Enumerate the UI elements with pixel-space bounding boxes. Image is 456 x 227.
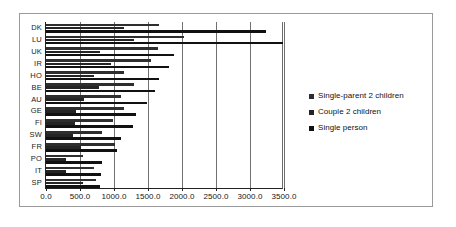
plot-area: 0.0500.01000.01500.02000.02500.03000.035… bbox=[45, 22, 283, 189]
y-axis-category-label: HO bbox=[30, 72, 42, 80]
bar bbox=[46, 161, 102, 164]
legend-item-label: Single-parent 2 children bbox=[318, 92, 404, 100]
bar bbox=[46, 113, 136, 116]
x-axis-tick-label: 1000.0 bbox=[101, 192, 126, 201]
bar-group: FR bbox=[46, 141, 282, 153]
x-axis-tick-label: 3000.0 bbox=[237, 192, 262, 201]
bar-group: SW bbox=[46, 129, 282, 141]
bar-group: IT bbox=[46, 165, 282, 177]
chart-legend: Single-parent 2 childrenCouple 2 childre… bbox=[309, 92, 429, 140]
y-axis-category-label: IR bbox=[34, 60, 42, 68]
legend-swatch-icon bbox=[309, 94, 314, 99]
y-axis-category-label: GE bbox=[31, 107, 42, 115]
bar-group: IR bbox=[46, 58, 282, 70]
bar bbox=[46, 173, 101, 176]
y-axis-category-label: AU bbox=[31, 96, 42, 104]
legend-swatch-icon bbox=[309, 126, 314, 131]
legend-item[interactable]: Single-parent 2 children bbox=[309, 92, 429, 100]
y-axis-category-label: UK bbox=[31, 48, 42, 56]
y-axis-category-label: LU bbox=[32, 36, 42, 44]
bar-group: SP bbox=[46, 177, 282, 189]
legend-item[interactable]: Single person bbox=[309, 124, 429, 132]
y-axis-category-label: FR bbox=[32, 143, 42, 151]
y-axis-category-label: SW bbox=[30, 131, 42, 139]
bar bbox=[46, 102, 147, 105]
bar bbox=[46, 149, 117, 152]
x-axis-tick-label: 2500.0 bbox=[203, 192, 228, 201]
chart-figure: 0.0500.01000.01500.02000.02500.03000.035… bbox=[0, 0, 456, 227]
gridline bbox=[284, 22, 285, 188]
legend-item[interactable]: Couple 2 children bbox=[309, 108, 429, 116]
bar-group: PO bbox=[46, 153, 282, 165]
y-axis-category-label: PO bbox=[31, 155, 42, 163]
bar bbox=[46, 90, 155, 93]
x-axis-tick-label: 1500.0 bbox=[135, 192, 160, 201]
bar bbox=[46, 78, 159, 81]
x-axis-tick-label: 0.0 bbox=[40, 192, 51, 201]
y-axis-category-label: SP bbox=[32, 179, 42, 187]
x-axis-tick-label: 500.0 bbox=[70, 192, 91, 201]
y-axis-category-label: BE bbox=[32, 84, 42, 92]
bar-group: DK bbox=[46, 22, 282, 34]
bar-group: LU bbox=[46, 34, 282, 46]
x-axis-tick-label: 2000.0 bbox=[169, 192, 194, 201]
bar-series-container: DKLUUKIRHOBEAUGEFISWFRPOITSP bbox=[46, 22, 282, 188]
bar-group: UK bbox=[46, 46, 282, 58]
x-axis-tick-label: 3500.0 bbox=[271, 192, 296, 201]
bar bbox=[46, 66, 169, 69]
bar bbox=[46, 30, 266, 33]
bar bbox=[46, 137, 121, 140]
bar bbox=[46, 185, 100, 188]
y-axis-category-label: IT bbox=[35, 167, 42, 175]
legend-item-label: Single person bbox=[318, 124, 368, 132]
bar bbox=[46, 54, 174, 57]
legend-swatch-icon bbox=[309, 110, 314, 115]
bar-group: BE bbox=[46, 82, 282, 94]
legend-item-label: Couple 2 children bbox=[318, 108, 381, 116]
bar-group: FI bbox=[46, 117, 282, 129]
bar-group: AU bbox=[46, 94, 282, 106]
bar-group: GE bbox=[46, 106, 282, 118]
y-axis-category-label: FI bbox=[35, 119, 42, 127]
x-axis-tick bbox=[284, 188, 285, 191]
bar bbox=[46, 42, 283, 45]
bar-group: HO bbox=[46, 70, 282, 82]
y-axis-category-label: DK bbox=[31, 24, 42, 32]
bar bbox=[46, 125, 133, 128]
